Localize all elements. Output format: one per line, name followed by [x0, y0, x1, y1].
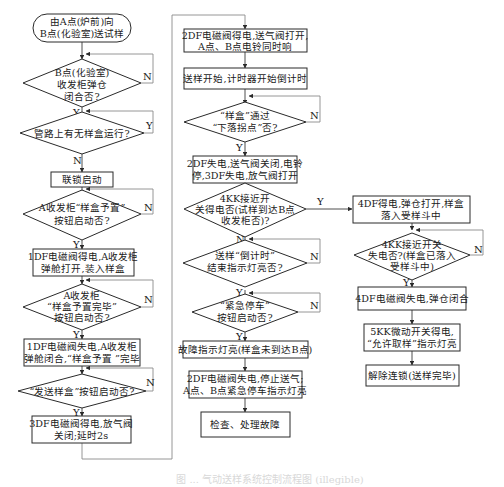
decision-countdown-end: 送样“倒计时” 结束指示灯亮否? N Y — [183, 240, 319, 298]
svg-text:停,3DF失电,放气阀打开: 停,3DF失电,放气阀打开 — [192, 170, 299, 181]
svg-text:检查、处理故障: 检查、处理故障 — [210, 419, 280, 430]
process-3df-on: 3DF电磁阀得电,放气阀 关闭;延时2s — [29, 416, 133, 443]
svg-text:失电否?(样盒已落入: 失电否?(样盒已落入 — [368, 250, 457, 261]
svg-text:结束指示灯亮否?: 结束指示灯亮否? — [207, 262, 282, 273]
svg-text:送样“倒计时”: 送样“倒计时” — [215, 250, 275, 261]
svg-text:B点(化验室): B点(化验室) — [55, 67, 110, 78]
svg-text:4DF电磁阀失电,弹仓闭合: 4DF电磁阀失电,弹仓闭合 — [355, 293, 469, 304]
svg-text:N: N — [310, 300, 319, 311]
svg-text:1DF电磁阀得电,A收发柜: 1DF电磁阀得电,A收发柜 — [28, 251, 138, 262]
svg-text:Y: Y — [235, 142, 243, 153]
process-2df-stop: 2DF电磁阀失电,停止送气; A点、B点紧急停车指示灯亮 — [182, 371, 307, 398]
process-interlock: 联锁启动 — [51, 172, 113, 187]
svg-text:4KK接近开关: 4KK接近开关 — [382, 239, 442, 250]
svg-text:N: N — [73, 155, 82, 166]
svg-text:N: N — [144, 294, 153, 305]
svg-text:N: N — [310, 110, 319, 121]
svg-text:闭合否?: 闭合否? — [64, 91, 99, 102]
process-fault-light: 故障指示灯亮(样盒未到达B点) — [178, 341, 313, 358]
process-1df-on: 1DF电磁阀得电,A收发柜 弹舱打开,装入样盒 — [28, 249, 138, 276]
decision-pipeline-busy: 管路上有无样盒运行? Y N — [20, 112, 153, 166]
decision-b-cabinet-closed: B点(化验室) 收发柜弹仓 闭合否? N Y — [23, 59, 152, 118]
process-4df-off: 4DF电磁阀失电,弹仓闭合 — [355, 287, 469, 310]
svg-text:N: N — [143, 71, 152, 82]
svg-text:“紧急停车”: “紧急停车” — [220, 300, 270, 311]
svg-text:Y: Y — [402, 277, 410, 288]
svg-text:落入受样斗中: 落入受样斗中 — [381, 210, 441, 221]
svg-text:A收发柜“样盒予置”: A收发柜“样盒予置” — [38, 202, 126, 213]
svg-text:送样开始,计时器开始倒计时: 送样开始,计时器开始倒计时 — [183, 73, 306, 84]
svg-text:关闭;延时2s: 关闭;延时2s — [54, 430, 108, 441]
decision-drop-point: “样盒”通过 “下落拐点”否? N Y — [184, 102, 319, 153]
svg-text:A点、B点紧急停车指示灯亮: A点、B点紧急停车指示灯亮 — [182, 385, 307, 396]
process-5kk-on: 5KK微动开关得电, “允许取样”指示灯亮 — [364, 324, 460, 351]
svg-text:Y: Y — [72, 239, 80, 250]
process-4df-on: 4DF得电,弹仓打开,样盒 落入受样斗中 — [353, 196, 470, 223]
svg-text:N: N — [474, 244, 483, 255]
svg-text:Y: Y — [145, 120, 153, 131]
svg-text:2DF电磁阀失电,停止送气;: 2DF电磁阀失电,停止送气; — [187, 373, 304, 384]
svg-text:按钮启动否?: 按钮启动否? — [217, 312, 272, 323]
svg-text:4DF得电,弹仓打开,样盒: 4DF得电,弹仓打开,样盒 — [358, 198, 465, 209]
decision-send-button: “发送样盒”按钮启动否? N Y — [18, 374, 155, 418]
process-release: 解除连锁(送样完毕) — [366, 365, 459, 386]
svg-text:“下落拐点”否?: “下落拐点”否? — [213, 122, 278, 133]
svg-text:N: N — [144, 202, 153, 213]
svg-text:1DF电磁阀失电,A收发柜: 1DF电磁阀失电,A收发柜 — [27, 341, 137, 352]
svg-text:按钮启动否?: 按钮启动否? — [54, 312, 109, 323]
svg-text:A收发柜: A收发柜 — [63, 290, 101, 301]
node-start: 由A点(炉前)向 B点(化验室)送试样 — [33, 14, 131, 42]
svg-text:“样盒予置完毕”: “样盒予置完毕” — [47, 301, 117, 312]
svg-text:“允许取样”指示灯亮: “允许取样”指示灯亮 — [367, 338, 457, 349]
decision-4kk-off: 4KK接近开关 失电否?(样盒已落入 受样斗中) N Y — [354, 233, 483, 288]
svg-text:解除连锁(送样完毕): 解除连锁(送样完毕) — [368, 370, 456, 381]
process-2df-off: 2DF失电,送气阀关闭,电铃 停,3DF失电,放气阀打开 — [187, 156, 304, 183]
svg-text:Y: Y — [316, 196, 324, 207]
svg-text:2DF失电,送气阀关闭,电铃: 2DF失电,送气阀关闭,电铃 — [187, 158, 304, 169]
svg-text:收发柜弹仓: 收发柜弹仓 — [57, 79, 107, 90]
svg-text:Y: Y — [235, 331, 243, 342]
figure-caption: 图 ... 气动送样系统控制流程图 (illegible) — [176, 473, 364, 485]
svg-text:受样斗中): 受样斗中) — [390, 261, 434, 272]
decision-preset-button: A收发柜“样盒予置” 按钮启动否? N Y — [23, 190, 153, 250]
decision-4kk-on: 4KK接近开 关得电否(试样到达B点 收发柜否)? Y N — [184, 183, 324, 245]
flowchart: 由A点(炉前)向 B点(化验室)送试样 B点(化验室) 收发柜弹仓 闭合否? N… — [0, 0, 504, 487]
decision-preset-done: A收发柜 “样盒予置完毕” 按钮启动否? N Y — [23, 284, 153, 340]
svg-text:弹舱闭合,“样盒予置 ”完毕: 弹舱闭合,“样盒予置 ”完毕 — [24, 353, 140, 364]
svg-text:3DF电磁阀得电,放气阀: 3DF电磁阀得电,放气阀 — [29, 418, 133, 429]
svg-text:A点、B点电铃同时响: A点、B点电铃同时响 — [197, 41, 292, 52]
svg-text:N: N — [146, 377, 155, 388]
svg-text:由A点(炉前)向: 由A点(炉前)向 — [50, 16, 114, 27]
svg-text:弹舱打开,装入样盒: 弹舱打开,装入样盒 — [41, 263, 124, 274]
svg-text:2DF电磁阀得电,送气阀打开,: 2DF电磁阀得电,送气阀打开, — [182, 30, 309, 41]
process-timer: 送样开始,计时器开始倒计时 — [183, 68, 307, 89]
svg-text:关得电否(试样到达B点: 关得电否(试样到达B点 — [195, 204, 296, 215]
svg-text:按钮启动否?: 按钮启动否? — [54, 215, 109, 226]
svg-text:4KK接近开: 4KK接近开 — [220, 193, 270, 204]
svg-text:“发送样盒”按钮启动否?: “发送样盒”按钮启动否? — [30, 386, 135, 397]
svg-text:管路上有无样盒运行?: 管路上有无样盒运行? — [34, 128, 129, 139]
svg-text:Y: Y — [72, 329, 80, 340]
svg-text:故障指示灯亮(样盒未到达B点): 故障指示灯亮(样盒未到达B点) — [178, 344, 313, 355]
svg-text:B点(化验室)送试样: B点(化验室)送试样 — [40, 28, 125, 39]
process-1df-off: 1DF电磁阀失电,A收发柜 弹舱闭合,“样盒予置 ”完毕 — [24, 339, 140, 366]
svg-text:联锁启动: 联锁启动 — [62, 174, 102, 185]
svg-text:N: N — [310, 251, 319, 262]
process-check: 检查、处理故障 — [201, 412, 290, 437]
svg-text:收发柜否)?: 收发柜否)? — [221, 215, 270, 226]
process-2df-on: 2DF电磁阀得电,送气阀打开, A点、B点电铃同时响 — [182, 29, 309, 52]
svg-text:“样盒”通过: “样盒”通过 — [220, 110, 270, 121]
decision-emergency: “紧急停车” 按钮启动否? N Y — [192, 294, 319, 342]
svg-text:5KK微动开关得电,: 5KK微动开关得电, — [370, 326, 454, 337]
